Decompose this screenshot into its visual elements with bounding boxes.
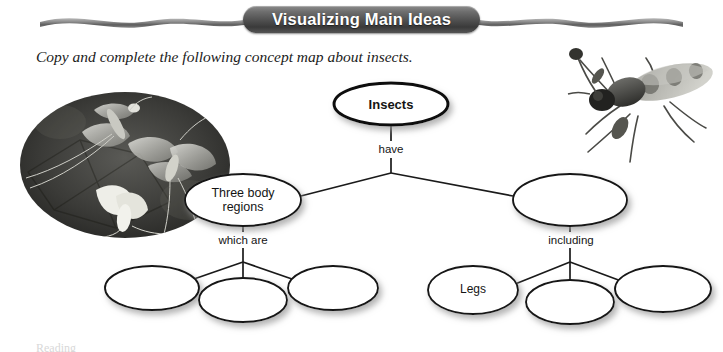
page-root: Visualizing Main Ideas Copy and complete…: [0, 0, 723, 352]
concept-map-ovals: [105, 83, 711, 324]
oval-insects: [334, 83, 448, 125]
oval-blank-l3: [288, 266, 378, 310]
oval-blank-r2: [526, 280, 614, 324]
connector-label-which-are: which are: [206, 234, 280, 246]
oval-blank-r3: [615, 266, 711, 312]
connector-label-including: including: [536, 234, 606, 246]
oval-level-two-blank: [513, 174, 627, 226]
concept-map-graphic: [0, 0, 723, 352]
footer-clipped-text: Reading: [36, 341, 76, 352]
oval-blank-l1: [105, 266, 199, 310]
oval-legs: [428, 266, 518, 314]
oval-blank-l2: [199, 278, 287, 322]
oval-three-body-regions: [185, 174, 301, 226]
connector-label-have: have: [366, 143, 416, 155]
